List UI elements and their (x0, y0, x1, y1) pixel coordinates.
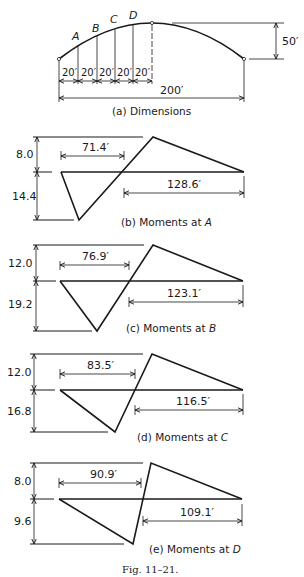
positive-ordinate-label: 12.0 (8, 257, 33, 270)
segment-label: 20′ (62, 67, 78, 78)
arch-curve (59, 23, 244, 59)
right-distance-label: 123.1′ (167, 287, 201, 300)
positive-ordinate-label: 8.0 (14, 475, 32, 488)
left-hinge (57, 57, 60, 60)
point-label-c: C (110, 13, 118, 26)
positive-ordinate-label: 12.0 (7, 366, 32, 379)
panel-dimensions: A B C D 20′ 20′ 20′ 20′ 20′ 200′ 50′ (a)… (57, 9, 299, 117)
point-label-a: A (71, 30, 80, 43)
negative-ordinate-label: 19.2 (8, 298, 33, 311)
segment-label: 20′ (81, 67, 97, 78)
left-distance-label: 71.4′ (82, 141, 109, 154)
span-label: 200′ (160, 84, 184, 97)
left-distance-label: 90.9′ (90, 468, 117, 481)
right-distance-label: 109.1′ (180, 506, 214, 519)
caption-dimensions: (a) Dimensions (112, 105, 191, 117)
caption-moments-d: (e) Moments at D (149, 543, 241, 555)
influence-line (59, 463, 242, 544)
figure-caption: Fig. 11–21. (122, 564, 179, 575)
point-label-b: B (92, 22, 100, 35)
negative-ordinate-label: 16.8 (7, 405, 32, 418)
positive-ordinate-label: 8.0 (16, 148, 34, 161)
caption-moments-a: (b) Moments at A (121, 216, 212, 228)
negative-ordinate-label: 9.6 (14, 515, 32, 528)
segment-label: 20′ (117, 67, 133, 78)
panel-moments-d: 8.0 9.6 90.9′ 109.1′ (e) Moments at D (14, 463, 242, 555)
negative-ordinate-label: 14.4 (12, 190, 37, 203)
segment-label: 20′ (99, 67, 115, 78)
panel-moments-c: 12.0 16.8 83.5′ 116.5′ (d) Moments at C (7, 354, 243, 443)
point-label-d: D (129, 9, 137, 22)
caption-moments-c: (d) Moments at C (137, 431, 229, 443)
crown-hinge (150, 21, 153, 24)
right-distance-label: 116.5′ (176, 395, 210, 408)
panel-moments-a: 8.0 14.4 71.4′ 128.6′ (b) Moments at A (12, 137, 244, 228)
left-distance-label: 76.9′ (82, 250, 109, 263)
panel-moments-b: 12.0 19.2 76.9′ 123.1′ (c) Moments at B (8, 245, 243, 334)
influence-line-figure: A B C D 20′ 20′ 20′ 20′ 20′ 200′ 50′ (a)… (0, 0, 304, 577)
rise-label: 50′ (282, 35, 299, 48)
right-hinge (242, 57, 245, 60)
right-distance-label: 128.6′ (167, 178, 201, 191)
caption-moments-b: (c) Moments at B (126, 322, 216, 334)
left-distance-label: 83.5′ (87, 359, 114, 372)
segment-label: 20′ (135, 67, 151, 78)
